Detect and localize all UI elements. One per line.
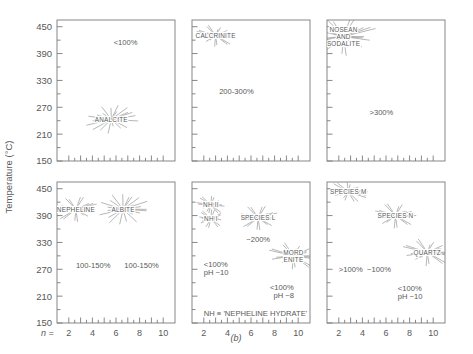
x-tick-label: 4 xyxy=(225,328,230,338)
cluster-label: NH II xyxy=(203,201,219,208)
y-tick-label: 390 xyxy=(36,48,52,59)
panel-annotation: pH ~10 xyxy=(204,268,229,277)
x-tick-label: 2 xyxy=(66,328,71,338)
cluster-label: NOSEAN xyxy=(329,26,357,33)
cluster-label: SODALITE xyxy=(327,40,360,47)
x-tick-label: 10 xyxy=(428,328,438,338)
y-tick-label: 270 xyxy=(36,264,52,275)
figure-root: ANALCITEANALCITE<100%CALCRINITECALCRINIT… xyxy=(0,0,473,354)
x-tick-label: 10 xyxy=(158,328,168,338)
panel-annotation: pH ~10 xyxy=(398,292,423,301)
cluster-label: NEPHELINE xyxy=(57,206,95,213)
figure-caption: (b) xyxy=(231,333,242,343)
x-tick-label: 2 xyxy=(336,328,341,338)
cluster-label: AND xyxy=(336,33,350,40)
y-tick-label: 270 xyxy=(36,102,52,113)
cluster-label: SPECIES L xyxy=(241,214,276,221)
cluster-label: CALCRINITE xyxy=(196,32,236,39)
cluster-label: SPECIES M xyxy=(330,188,367,195)
cluster-label: NH I xyxy=(204,215,218,222)
x-tick-label: 8 xyxy=(407,328,412,338)
panel-annotation: pH ~8 xyxy=(273,291,293,300)
cluster-label: ENITE xyxy=(284,256,304,263)
x-tick-label: 2 xyxy=(201,328,206,338)
x-tick-label: 10 xyxy=(293,328,303,338)
panel-annotation: 100-150% xyxy=(76,261,111,270)
cluster-label: SPECIES N xyxy=(377,212,413,219)
x-tick-label: 6 xyxy=(248,328,253,338)
panel-annotation: 200-300% xyxy=(219,87,254,96)
y-axis-title-label: Temperature (°C) xyxy=(3,141,14,214)
cluster-label: ALBITE xyxy=(111,206,134,213)
panel-annotation: 100-150% xyxy=(124,261,159,270)
y-tick-label: 390 xyxy=(36,210,52,221)
y-tick-label: 210 xyxy=(36,291,52,302)
y-tick-label: 450 xyxy=(36,183,52,194)
panel-annotation: <100% xyxy=(114,38,138,47)
y-tick-label: 330 xyxy=(36,237,52,248)
x-tick-label: 4 xyxy=(360,328,365,338)
y-tick-label: 150 xyxy=(36,155,52,166)
y-tick-label: 450 xyxy=(36,21,52,32)
panel-annotation: >100% xyxy=(339,265,363,274)
y-tick-label: 150 xyxy=(36,317,52,328)
x-axis-prefix-label: n = xyxy=(41,328,54,338)
x-tick-label: 4 xyxy=(90,328,95,338)
cluster-label: ANALCITE xyxy=(95,116,128,123)
panel-annotation: ~100% xyxy=(367,265,391,274)
x-tick-label: 6 xyxy=(383,328,388,338)
x-tick-label: 8 xyxy=(137,328,142,338)
panel-annotation: ~200% xyxy=(246,235,270,244)
x-tick-label: 8 xyxy=(272,328,277,338)
y-tick-label: 330 xyxy=(36,75,52,86)
panel-annotation: NH ≡ 'NEPHELINE HYDRATE' xyxy=(204,309,308,318)
panel-annotation: >300% xyxy=(369,108,393,117)
cluster-label: MORD xyxy=(283,249,304,256)
x-tick-label: 6 xyxy=(113,328,118,338)
y-tick-label: 210 xyxy=(36,129,52,140)
cluster-label: QUARTZ xyxy=(414,249,441,257)
